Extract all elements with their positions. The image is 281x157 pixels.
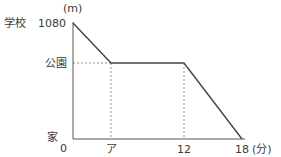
y-unit-label: (m): [63, 2, 82, 15]
x-tick-0: 0: [60, 142, 67, 155]
y-tick-1080: 1080: [38, 17, 66, 30]
x-tick-a: ア: [106, 143, 117, 156]
x-tick-18: 18: [235, 143, 249, 156]
park-label: 公園: [45, 57, 67, 70]
distance-time-chart: (m) 学校 1080 公園 家 0 ア 12 18 (分): [0, 0, 281, 157]
x-tick-12: 12: [177, 143, 191, 156]
school-label: 学校: [4, 16, 26, 30]
home-label: 家: [47, 130, 58, 144]
distance-line: [73, 23, 242, 139]
x-unit-label: (分): [252, 143, 272, 156]
